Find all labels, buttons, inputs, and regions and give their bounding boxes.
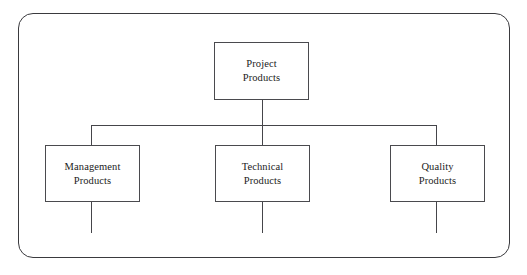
node-management-products: Management Products	[45, 145, 140, 202]
product-breakdown-diagram: Project Products Management Products Tec…	[0, 0, 527, 275]
edge-bus-to-management	[91, 125, 92, 145]
node-label-line2: Products	[419, 174, 457, 188]
node-quality-products: Quality Products	[390, 145, 485, 202]
edge-management-continues-below	[91, 202, 92, 233]
node-label-line1: Management	[65, 160, 121, 174]
node-technical-products: Technical Products	[215, 145, 310, 202]
node-label-line2: Products	[243, 71, 281, 85]
node-project-products: Project Products	[214, 42, 309, 100]
edge-technical-continues-below	[262, 202, 263, 233]
edge-root-to-bus	[262, 100, 263, 145]
edge-horizontal-bus	[91, 125, 437, 126]
edge-quality-continues-below	[436, 202, 437, 233]
edge-bus-to-quality	[436, 125, 437, 145]
node-label-line1: Technical	[242, 160, 284, 174]
node-label-line1: Quality	[421, 160, 453, 174]
node-label-line1: Project	[246, 57, 276, 71]
node-label-line2: Products	[74, 174, 112, 188]
node-label-line2: Products	[244, 174, 282, 188]
